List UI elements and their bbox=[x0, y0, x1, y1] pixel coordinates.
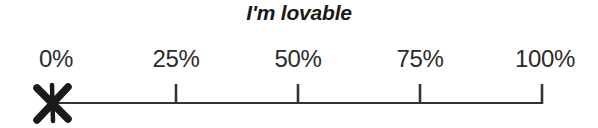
scale-area: 0% 25% 50% 75% 100% bbox=[0, 0, 598, 128]
rating-scale-worksheet: I'm lovable 0% 25% 50% 75% 100% bbox=[0, 0, 598, 128]
axis-graphic bbox=[0, 0, 598, 128]
